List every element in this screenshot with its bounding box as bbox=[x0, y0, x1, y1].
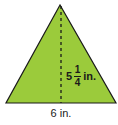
fraction-denominator: 4 bbox=[75, 78, 81, 88]
base-label: 6 in. bbox=[0, 108, 118, 119]
height-whole: 5 bbox=[66, 71, 72, 82]
height-unit: in. bbox=[83, 71, 96, 82]
height-label: 5 1 4 in. bbox=[66, 65, 96, 88]
height-fraction: 1 4 bbox=[74, 65, 81, 88]
fraction-numerator: 1 bbox=[75, 65, 81, 75]
